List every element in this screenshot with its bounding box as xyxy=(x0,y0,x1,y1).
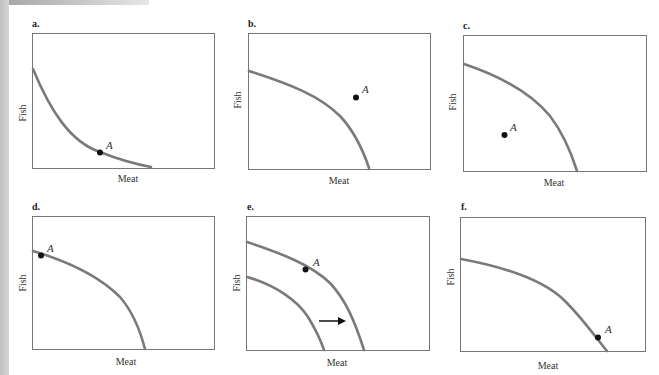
panel-label: c. xyxy=(463,20,470,31)
panel-label: b. xyxy=(248,18,257,29)
point-label: A xyxy=(509,121,517,133)
y-axis-label: Fish xyxy=(445,268,456,285)
point-a xyxy=(97,150,103,156)
plot-frame xyxy=(461,218,646,352)
x-axis-label: Meat xyxy=(118,173,139,184)
panel-d: d. A Fish Meat xyxy=(17,201,215,367)
curve xyxy=(33,69,151,167)
y-axis-label: Fish xyxy=(231,274,242,291)
panel-e: e. A Fish Meat xyxy=(231,201,430,368)
inner-curve xyxy=(247,277,324,350)
curve xyxy=(33,251,145,349)
panel-b: b. A Fish Meat xyxy=(232,18,431,186)
panel-label: a. xyxy=(32,18,40,29)
y-axis-label: Fish xyxy=(17,104,28,121)
panel-label: f. xyxy=(461,201,467,212)
x-axis-label: Meat xyxy=(329,175,350,186)
point-label: A xyxy=(46,242,54,254)
point-label: A xyxy=(105,139,113,151)
outer-curve xyxy=(247,242,364,350)
curve xyxy=(464,64,577,171)
panel-label: e. xyxy=(247,201,254,212)
panel-label: d. xyxy=(32,201,41,212)
point-label: A xyxy=(361,83,369,95)
y-axis-label: Fish xyxy=(447,93,458,110)
point-label: A xyxy=(604,323,612,335)
arrow-head-icon xyxy=(338,317,346,325)
plot-frame xyxy=(33,217,215,350)
point-a xyxy=(303,267,309,273)
point-label: A xyxy=(312,256,320,268)
y-axis-label: Fish xyxy=(232,91,243,108)
y-axis-label: Fish xyxy=(17,274,28,291)
ppf-figure: a. A Fish Meat b. A Fish Meat c. A Fish … xyxy=(0,0,659,375)
plot-frame xyxy=(249,34,431,170)
panel-c: c. A Fish Meat xyxy=(447,20,647,188)
panel-a: a. A Fish Meat xyxy=(17,18,215,184)
point-a xyxy=(502,132,508,138)
x-axis-label: Meat xyxy=(544,177,565,188)
panel-f: f. A Fish Meat xyxy=(445,201,646,371)
plot-frame xyxy=(247,217,430,351)
curve xyxy=(249,71,369,168)
point-a xyxy=(353,95,359,101)
point-a xyxy=(595,335,601,341)
point-a xyxy=(38,253,44,259)
plot-frame xyxy=(33,34,215,169)
x-axis-label: Meat xyxy=(327,357,348,368)
x-axis-label: Meat xyxy=(538,360,559,371)
x-axis-label: Meat xyxy=(116,356,137,367)
plot-frame xyxy=(464,36,647,172)
curve xyxy=(461,259,607,351)
